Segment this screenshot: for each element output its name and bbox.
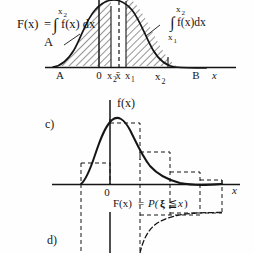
formula-left-equals: =	[44, 17, 51, 31]
tick-label-x2-right-sub: 2	[162, 77, 166, 86]
panel-d-droppers	[81, 180, 222, 253]
tick-label-x1-sub: 1	[131, 75, 135, 84]
panel-c-origin-label: 0	[104, 186, 110, 198]
formula-left-lower-limit: A	[44, 35, 53, 49]
figure-root: F(x) = ∫ x 2 f(x) dx A x 2 ∫ f(x)dx x 1 …	[0, 0, 254, 253]
panel-c-x-axis-label: x	[231, 184, 237, 196]
panel-c-label: c)	[45, 117, 54, 131]
panel-c-y-axis-label: f(x)	[117, 96, 135, 110]
caption-relation: ≦	[168, 197, 177, 209]
caption-variable: ξ	[160, 197, 165, 210]
panel-c: c) f(x) 0 x	[45, 96, 240, 198]
tick-label-zero: 0	[96, 69, 102, 81]
formula-left-upper-limit: x	[58, 6, 63, 16]
top-axis-ticks: A 0 x 2 x̄ x 1 x 2 B x	[56, 69, 217, 86]
panel-d-label: d)	[47, 233, 57, 247]
caption-lhs: F(x)	[113, 197, 132, 210]
tick-label-x2-right: x	[155, 70, 161, 82]
figure-canvas: F(x) = ∫ x 2 f(x) dx A x 2 ∫ f(x)dx x 1 …	[0, 0, 254, 253]
construction-rectangles	[81, 118, 222, 184]
panel-c-density-curve	[81, 118, 222, 185]
formula-right: x 2 ∫ f(x)dx x 1	[168, 4, 206, 45]
top-x-axis-label: x	[211, 70, 217, 81]
formula-right-lower-limit-sub: 1	[174, 37, 178, 45]
formula-left-lhs: F(x)	[17, 17, 39, 31]
tick-label-A: A	[56, 69, 64, 81]
integral-sign-left: ∫	[52, 15, 59, 35]
tick-label-B: B	[192, 69, 199, 81]
caption-equals: =	[138, 197, 144, 209]
caption-rhs-prefix: P(	[147, 197, 160, 210]
top-panel: F(x) = ∫ x 2 f(x) dx A x 2 ∫ f(x)dx x 1 …	[17, 0, 236, 86]
panel-d-cumulative-curve	[140, 212, 222, 253]
caption-rhs-suffix: )	[184, 197, 188, 210]
tick-label-xbar: x̄	[115, 70, 121, 81]
integral-sign-right: ∫	[169, 14, 176, 33]
panel-d: d) F(x) = P( ξ ≦ x )	[47, 180, 222, 253]
panel-d-caption: F(x) = P( ξ ≦ x )	[113, 197, 188, 210]
formula-right-lower-limit: x	[168, 32, 173, 42]
formula-right-integrand: f(x)dx	[177, 16, 206, 29]
caption-argument: x	[177, 197, 183, 209]
formula-left-integrand: f(x) dx	[61, 17, 96, 31]
formula-right-upper-limit: x	[176, 4, 181, 14]
